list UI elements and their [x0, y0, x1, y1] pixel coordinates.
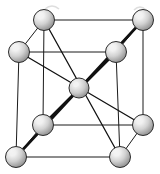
- atom-sphere-back-top-left: [34, 10, 55, 31]
- atom-front-top-left: corner atom front top left: [9, 42, 30, 63]
- atom-sphere-front-top-right: [106, 42, 127, 63]
- atom-back-top-left: corner atom back top left: [34, 10, 55, 31]
- atom-sphere-front-bottom-left: [6, 147, 27, 168]
- bcc-lattice-diagram: corner atom back top leftcorner atom bac…: [0, 0, 160, 174]
- atom-sphere-front-top-left: [9, 42, 30, 63]
- atom-back-bottom-right: corner atom back bottom right: [133, 115, 154, 136]
- atom-sphere-back-top-right: [133, 10, 154, 31]
- atom-front-top-right: corner atom front top right: [106, 42, 127, 63]
- atom-front-bottom-left: corner atom front bottom left: [6, 147, 27, 168]
- atom-sphere-back-bottom-left: [33, 115, 54, 136]
- atom-back-top-right: corner atom back top right: [133, 10, 154, 31]
- atom-front-bottom-right: corner atom front bottom right: [110, 147, 131, 168]
- atom-back-bottom-left: corner atom back bottom left: [33, 115, 54, 136]
- atom-sphere-body-center: [69, 78, 89, 98]
- atom-sphere-back-bottom-right: [133, 115, 154, 136]
- atom-body-center: body-center atom: [69, 78, 89, 98]
- bcc-lattice-figure: corner atom back top leftcorner atom bac…: [0, 0, 160, 174]
- atom-sphere-front-bottom-right: [110, 147, 131, 168]
